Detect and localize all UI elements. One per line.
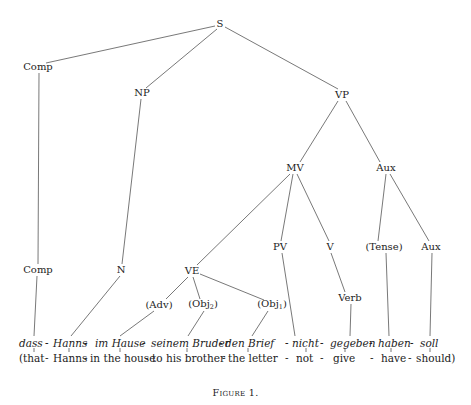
dash: - <box>408 353 412 364</box>
gloss-have: have <box>381 353 406 364</box>
gloss-to-his-brother: to his brother <box>152 353 225 364</box>
node-aux-upper: Aux <box>376 163 395 173</box>
gloss-should: should) <box>416 353 455 364</box>
word-haben: haben <box>378 338 411 349</box>
word-soll: soll <box>420 338 438 349</box>
dash: - <box>369 338 373 349</box>
dash: - <box>370 353 374 364</box>
node-obj1-label: (Obj <box>257 298 279 309</box>
node-obj2: (Obj2) <box>188 299 218 311</box>
word-hanns: Hanns <box>53 338 87 349</box>
dash: - <box>84 353 88 364</box>
dash: - <box>45 353 49 364</box>
node-pv: PV <box>273 242 287 252</box>
dash: - <box>219 338 223 349</box>
dash: - <box>285 353 289 364</box>
node-tense: (Tense) <box>365 242 402 252</box>
node-vp: VP <box>335 90 349 100</box>
gloss-that: (that <box>19 353 45 364</box>
node-aux-lower: Aux <box>421 242 440 252</box>
node-obj1-subscript: 1 <box>279 303 283 311</box>
word-den-brief: den Brief <box>225 338 274 349</box>
gloss-hanns: Hanns <box>53 353 87 364</box>
node-ve: VE <box>185 266 200 276</box>
node-comp-upper: Comp <box>23 62 53 72</box>
word-nicht: - nicht <box>285 338 319 349</box>
dash: - <box>320 338 324 349</box>
dash: - <box>410 338 414 349</box>
node-s: S <box>217 19 224 29</box>
dash: - <box>142 338 146 349</box>
word-im-hause: im Hause <box>95 338 145 349</box>
node-obj1: (Obj1) <box>257 299 287 311</box>
word-seinem-bruder: seinem Bruder <box>151 338 230 349</box>
figure-caption: Figure 1. <box>0 387 471 398</box>
node-verb: Verb <box>338 293 361 303</box>
dash: - <box>84 338 88 349</box>
dash: - <box>145 353 149 364</box>
gloss-not: not <box>296 353 313 364</box>
dash: - <box>45 338 49 349</box>
gloss-give: give <box>333 353 355 364</box>
node-mv: MV <box>286 163 303 173</box>
dash: - <box>222 353 226 364</box>
node-obj2-label: (Obj <box>188 298 210 309</box>
dash: - <box>320 353 324 364</box>
node-adv: (Adv) <box>145 300 172 310</box>
word-dass: dass <box>19 338 43 349</box>
gloss-the-letter: the letter <box>228 353 278 364</box>
node-v: V <box>326 242 333 252</box>
node-n: N <box>117 265 126 275</box>
node-obj2-subscript: 2 <box>210 303 214 311</box>
node-comp-lower: Comp <box>23 265 53 275</box>
node-np: NP <box>134 88 149 98</box>
